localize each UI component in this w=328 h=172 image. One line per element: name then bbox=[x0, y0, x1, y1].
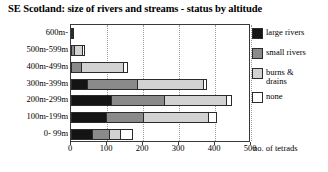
bar-segment bbox=[137, 79, 204, 90]
y-tick-label-100m-199m: 100m-199m bbox=[2, 112, 68, 121]
legend-swatch-burns-drains bbox=[252, 68, 263, 79]
legend-swatch-none bbox=[252, 92, 263, 103]
y-tick-label-500m-599m: 500m-599m bbox=[2, 45, 68, 54]
x-axis-labels: 0 100 200 300 400 500 bbox=[70, 143, 250, 157]
legend-swatch-small-rivers bbox=[252, 48, 263, 59]
legend-item-large-rivers: large rivers bbox=[252, 28, 304, 39]
legend-label-large-rivers: large rivers bbox=[266, 28, 304, 37]
legend-item-small-rivers: small rivers bbox=[252, 48, 306, 59]
y-tick-label-300m-399m: 300m-399m bbox=[2, 79, 68, 88]
bar-segment bbox=[111, 95, 165, 106]
x-tick-label-300: 300 bbox=[172, 143, 185, 153]
x-tick-label-400: 400 bbox=[208, 143, 221, 153]
bar-row bbox=[71, 112, 217, 123]
y-tick-label-600m: 600m- bbox=[2, 28, 68, 37]
bar-segment bbox=[71, 79, 88, 90]
bar-row bbox=[71, 79, 207, 90]
bar-segment bbox=[120, 129, 133, 140]
bars-layer bbox=[71, 25, 249, 141]
bar-row bbox=[71, 95, 232, 106]
legend-label-small-rivers: small rivers bbox=[266, 48, 306, 57]
bar-segment bbox=[81, 62, 124, 73]
x-tick-label-200: 200 bbox=[136, 143, 149, 153]
legend-label-none: none bbox=[266, 92, 283, 101]
bar-segment bbox=[71, 129, 93, 140]
x-axis-title: no. of tetrads bbox=[253, 143, 298, 153]
bar-segment bbox=[226, 95, 231, 106]
bar-segment bbox=[92, 129, 109, 140]
legend-swatch-large-rivers bbox=[252, 28, 263, 39]
bar-segment bbox=[71, 112, 107, 123]
x-tick-label-100: 100 bbox=[100, 143, 113, 153]
bar-segment bbox=[106, 112, 144, 123]
bar-segment bbox=[203, 79, 207, 90]
legend-item-none: none bbox=[252, 92, 283, 103]
bar-segment bbox=[208, 112, 217, 123]
bar-segment bbox=[71, 95, 112, 106]
bar-segment bbox=[123, 62, 128, 73]
x-tick-label-0: 0 bbox=[68, 143, 72, 153]
chart-container: SE Scotland: size of rivers and streams … bbox=[0, 0, 328, 172]
bar-segment bbox=[72, 28, 74, 39]
plot-area bbox=[70, 24, 250, 142]
bar-row bbox=[71, 45, 85, 56]
legend-label-burns-drains: burns & drains bbox=[266, 68, 294, 86]
y-tick-label-200m-299m: 200m-299m bbox=[2, 95, 68, 104]
bar-segment bbox=[82, 45, 86, 56]
bar-segment bbox=[143, 112, 210, 123]
bar-row bbox=[71, 28, 74, 39]
legend: large rivers small rivers burns & drains… bbox=[250, 26, 328, 132]
chart-title: SE Scotland: size of rivers and streams … bbox=[8, 3, 262, 14]
bar-segment bbox=[164, 95, 227, 106]
legend-item-burns-drains: burns & drains bbox=[252, 68, 294, 86]
y-tick-label-0-99m: 0- 99m bbox=[2, 129, 68, 138]
y-axis-labels: 600m- 500m-599m 400m-499m 300m-399m 200m… bbox=[0, 24, 68, 142]
bar-row bbox=[71, 129, 133, 140]
bar-row bbox=[71, 62, 128, 73]
y-tick-label-400m-499m: 400m-499m bbox=[2, 62, 68, 71]
bar-segment bbox=[87, 79, 138, 90]
